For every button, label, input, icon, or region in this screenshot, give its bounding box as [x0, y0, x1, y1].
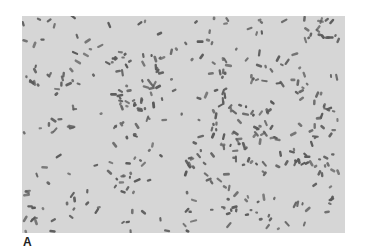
- panel-label: A: [23, 236, 32, 248]
- bacteria-cells: [22, 16, 345, 233]
- micrograph-image: [22, 16, 345, 233]
